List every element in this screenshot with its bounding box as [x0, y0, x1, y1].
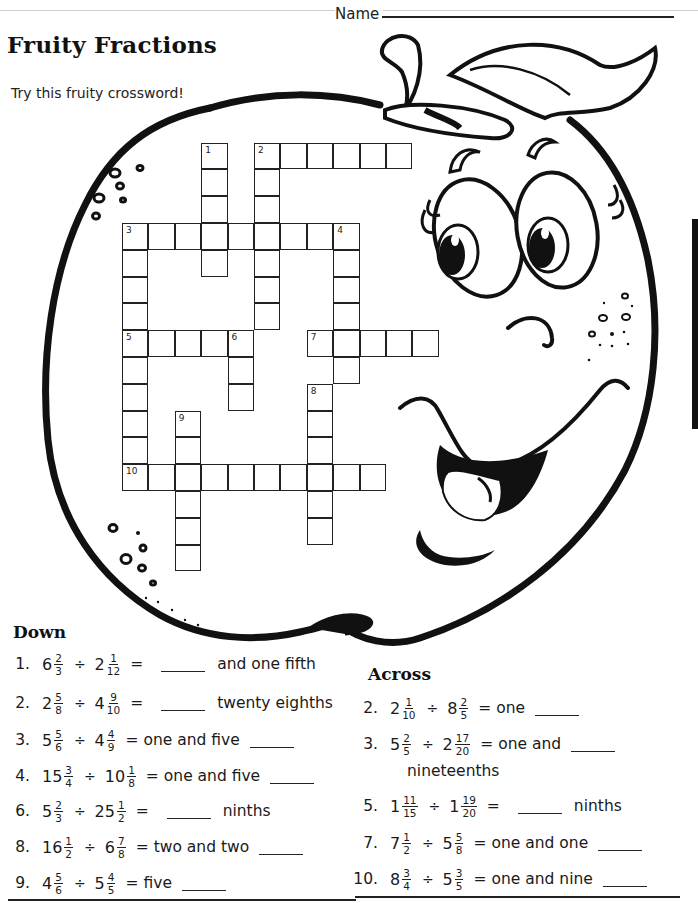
answer-blank[interactable]	[598, 836, 642, 851]
equals-sign: =	[487, 797, 500, 815]
grid-cell[interactable]	[307, 491, 333, 518]
grid-cell[interactable]	[175, 491, 201, 518]
divide-sign: ÷	[74, 803, 86, 819]
mixed-number: 4910	[95, 692, 123, 715]
answer-blank[interactable]	[182, 876, 226, 891]
grid-cell[interactable]	[175, 330, 201, 357]
grid-cell[interactable]	[201, 464, 227, 491]
grid-cell-7-across-1[interactable]: 7	[307, 330, 333, 357]
grid-cell-5-across-1[interactable]: 5	[122, 330, 148, 357]
grid-cell[interactable]	[254, 223, 280, 250]
grid-cell[interactable]	[333, 250, 359, 277]
answer-blank[interactable]	[535, 701, 579, 716]
grid-cell[interactable]	[280, 143, 306, 170]
answer-blank[interactable]	[250, 733, 294, 748]
grid-cell[interactable]	[254, 303, 280, 330]
grid-cell[interactable]	[228, 464, 254, 491]
divide-sign: ÷	[422, 835, 434, 851]
mixed-number: 449	[95, 729, 118, 752]
down-clue-9: 9. 456 ÷ 545 = five	[0, 868, 236, 898]
grid-cell[interactable]	[360, 464, 386, 491]
grid-cell[interactable]	[254, 196, 280, 223]
grid-cell[interactable]	[254, 169, 280, 196]
mixed-number: 623	[42, 653, 65, 676]
grid-cell[interactable]	[333, 277, 359, 304]
grid-cell[interactable]	[122, 250, 148, 277]
grid-cell[interactable]	[175, 518, 201, 545]
mixed-number: 2512	[95, 800, 128, 823]
grid-cell[interactable]	[412, 330, 438, 357]
grid-cell[interactable]	[360, 143, 386, 170]
grid-cell[interactable]	[122, 277, 148, 304]
answer-blank[interactable]	[259, 840, 303, 855]
grid-cell[interactable]	[201, 223, 227, 250]
grid-cell[interactable]	[228, 384, 254, 411]
grid-cell[interactable]	[280, 464, 306, 491]
answer-blank[interactable]	[161, 696, 205, 711]
grid-cell-10-across-1[interactable]: 10	[122, 464, 148, 491]
grid-cell-1-down-1[interactable]: 1	[201, 143, 227, 170]
equals-sign: =	[473, 834, 486, 852]
answer-blank[interactable]	[518, 799, 562, 814]
grid-cell[interactable]	[148, 330, 174, 357]
equals-sign: =	[130, 655, 143, 673]
grid-cell-8-down-1[interactable]: 8	[307, 384, 333, 411]
clue-number: 8	[311, 386, 317, 396]
clue-text: one	[496, 699, 525, 717]
grid-cell[interactable]	[122, 384, 148, 411]
grid-cell[interactable]	[386, 330, 412, 357]
grid-cell[interactable]	[122, 411, 148, 438]
grid-cell[interactable]	[254, 277, 280, 304]
grid-cell[interactable]	[175, 223, 201, 250]
grid-cell[interactable]	[307, 464, 333, 491]
grid-cell[interactable]	[333, 330, 359, 357]
answer-blank[interactable]	[167, 804, 211, 819]
grid-cell[interactable]	[201, 250, 227, 277]
grid-cell[interactable]	[307, 223, 333, 250]
grid-cell[interactable]	[386, 143, 412, 170]
answer-blank[interactable]	[603, 872, 647, 887]
grid-cell[interactable]	[333, 303, 359, 330]
grid-cell[interactable]	[228, 357, 254, 384]
grid-cell[interactable]	[122, 437, 148, 464]
grid-cell[interactable]	[254, 464, 280, 491]
grid-cell[interactable]	[201, 330, 227, 357]
grid-cell[interactable]	[333, 143, 359, 170]
mixed-number: 258	[42, 692, 65, 715]
grid-cell-9-down-1[interactable]: 9	[175, 411, 201, 438]
divide-sign: ÷	[74, 732, 86, 748]
grid-cell-2-across-1[interactable]: 2	[254, 143, 280, 170]
grid-cell[interactable]	[280, 223, 306, 250]
grid-cell[interactable]	[307, 518, 333, 545]
grid-cell[interactable]	[148, 464, 174, 491]
grid-cell-3-across-1[interactable]: 3	[122, 223, 148, 250]
clue-text: one and one	[491, 834, 588, 852]
grid-cell-4-down-1[interactable]: 4	[333, 223, 359, 250]
grid-cell[interactable]	[307, 143, 333, 170]
answer-blank[interactable]	[571, 737, 615, 752]
answer-blank[interactable]	[161, 657, 205, 672]
grid-cell[interactable]	[307, 411, 333, 438]
grid-cell[interactable]	[175, 464, 201, 491]
clue-number: 9	[179, 413, 185, 423]
grid-cell[interactable]	[201, 169, 227, 196]
across-heading: Across	[368, 664, 431, 684]
grid-cell[interactable]	[122, 357, 148, 384]
clue-number: 5	[126, 332, 132, 342]
grid-cell[interactable]	[228, 223, 254, 250]
grid-cell[interactable]	[254, 250, 280, 277]
grid-cell[interactable]	[360, 330, 386, 357]
grid-cell[interactable]	[307, 437, 333, 464]
grid-cell-6-down-1[interactable]: 6	[228, 330, 254, 357]
divide-sign: ÷	[422, 736, 434, 752]
grid-cell[interactable]	[175, 545, 201, 572]
clue-text: one and	[498, 735, 561, 753]
grid-cell[interactable]	[201, 196, 227, 223]
grid-cell[interactable]	[122, 303, 148, 330]
clue-text: one and five	[164, 767, 260, 785]
grid-cell[interactable]	[333, 357, 359, 384]
grid-cell[interactable]	[333, 464, 359, 491]
grid-cell[interactable]	[148, 223, 174, 250]
answer-blank[interactable]	[270, 769, 314, 784]
grid-cell[interactable]	[175, 437, 201, 464]
